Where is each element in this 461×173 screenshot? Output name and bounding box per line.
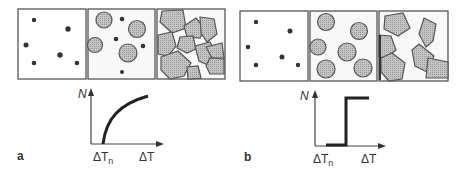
panel-b-stage-2 — [310, 11, 377, 81]
graph-a-x-marker: ΔTn — [93, 150, 113, 166]
graph-b-x-marker: ΔTn — [313, 152, 333, 168]
graph-b: N ΔTn ΔT b — [244, 89, 386, 168]
nucleation-diagram: N ΔTn ΔT a — [0, 0, 461, 173]
graph-a-y-label: N — [78, 87, 87, 101]
panel-b-label: b — [244, 150, 251, 164]
panel-b-stage-3 — [379, 11, 448, 81]
panel-a-stage-1 — [18, 9, 86, 79]
graph-a-x-label: ΔT — [139, 150, 155, 164]
panel-b-stage-1 — [240, 11, 308, 81]
graph-a: N ΔTn ΔT a — [17, 87, 164, 166]
panel-a-label: a — [17, 149, 24, 163]
graph-b-y-label: N — [300, 89, 309, 103]
graph-b-x-label: ΔT — [361, 152, 377, 166]
panel-a-stage-3 — [157, 9, 225, 79]
panel-a-stage-2 — [88, 9, 156, 79]
